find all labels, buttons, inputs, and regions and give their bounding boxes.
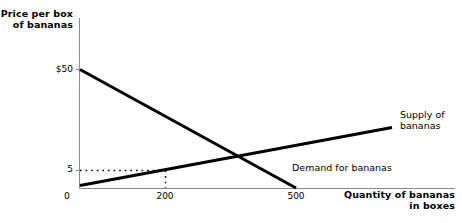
x-axis-title-line2: in boxes (409, 200, 455, 211)
x-tick-label-500: 500 (283, 191, 309, 201)
y-axis-title: Price per boxof bananas (1, 9, 73, 31)
supply-series-label: Supply ofbananas (400, 110, 445, 132)
x-axis-title-line1: Quantity of bananas (344, 189, 455, 200)
supply-series-label-line2: bananas (400, 120, 441, 131)
supply-curve (80, 128, 392, 186)
demand-curve (80, 70, 296, 189)
x-tick-label-200: 200 (152, 191, 178, 201)
supply-demand-chart: Price per boxof bananas Quantity of bana… (0, 0, 462, 223)
y-axis-title-line2: of bananas (13, 19, 73, 30)
y-axis-title-line1: Price per box (1, 8, 73, 19)
origin-tick-label: 0 (64, 191, 70, 201)
y-tick-label-5: 5 (67, 164, 73, 174)
demand-series-label: Demand for bananas (292, 163, 392, 174)
y-tick-label-50: $50 (56, 64, 73, 74)
supply-series-label-line1: Supply of (400, 109, 445, 120)
x-axis-title: Quantity of bananasin boxes (344, 190, 455, 212)
